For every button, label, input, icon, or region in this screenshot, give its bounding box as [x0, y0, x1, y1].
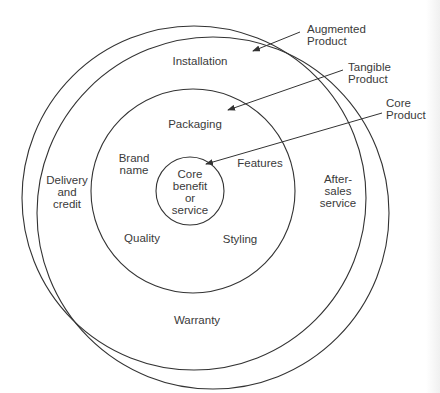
label-brand-name: Brand name — [104, 152, 164, 176]
tangible-arrow — [228, 70, 343, 110]
callout-augmented-product: Augmented Product — [307, 23, 366, 47]
label-styling: Styling — [210, 233, 270, 245]
label-packaging: Packaging — [155, 118, 235, 130]
augmented-arrow — [253, 32, 300, 51]
label-core-benefit: Core benefit or service — [160, 168, 220, 216]
label-after-sales-service: After- sales service — [303, 173, 373, 209]
label-quality: Quality — [112, 232, 172, 244]
page-edge-shadow — [426, 0, 440, 393]
label-warranty: Warranty — [157, 314, 237, 326]
label-features: Features — [225, 157, 295, 169]
callout-tangible-product: Tangible Product — [348, 61, 391, 85]
label-installation: Installation — [155, 55, 245, 67]
label-delivery-and-credit: Delivery and credit — [32, 174, 102, 210]
callout-core-product: Core Product — [386, 97, 426, 121]
